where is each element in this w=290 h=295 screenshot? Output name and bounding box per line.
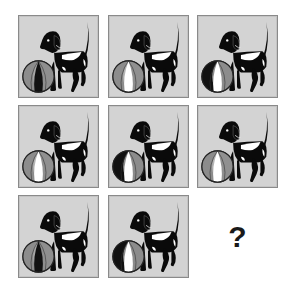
- dog-with-ball-image: [109, 106, 188, 187]
- ball-icon: [202, 61, 233, 92]
- ball-icon: [113, 61, 144, 92]
- puzzle-cell-r2c2: [108, 105, 189, 188]
- puzzle-cell-r1c3: [197, 15, 278, 98]
- ball-icon: [202, 151, 233, 182]
- dog-with-ball-image: [198, 16, 277, 97]
- dog-with-ball-image: [109, 16, 188, 97]
- dog-with-ball-image: [19, 16, 98, 97]
- puzzle-cell-r3c1: [18, 195, 99, 278]
- puzzle-cell-r1c2: [108, 15, 189, 98]
- ball-icon: [23, 61, 54, 92]
- puzzle-cell-r3c2: [108, 195, 189, 278]
- dog-with-ball-image: [19, 106, 98, 187]
- ball-icon: [113, 151, 144, 182]
- dog-with-ball-image: [198, 106, 277, 187]
- ball-icon: [23, 241, 54, 272]
- dog-with-ball-image: [109, 196, 188, 277]
- puzzle-cell-r2c3: [197, 105, 278, 188]
- dog-with-ball-image: [19, 196, 98, 277]
- puzzle-cell-r2c1: [18, 105, 99, 188]
- ball-icon: [113, 241, 144, 272]
- puzzle-cell-r1c1: [18, 15, 99, 98]
- puzzle-grid: ?: [18, 15, 282, 285]
- missing-answer-placeholder: ?: [197, 195, 278, 278]
- ball-icon: [23, 151, 54, 182]
